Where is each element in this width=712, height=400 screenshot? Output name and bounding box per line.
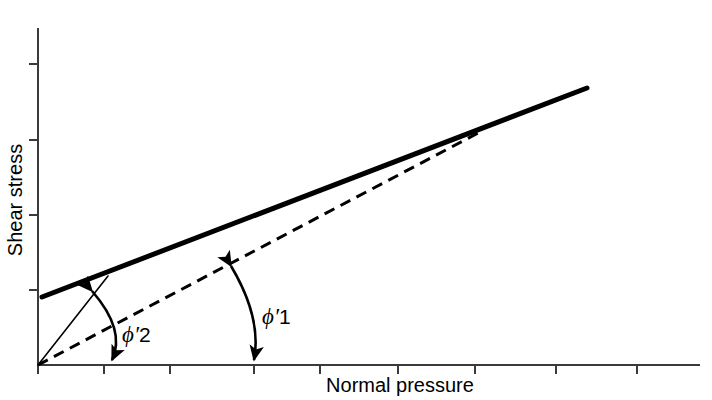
- y-axis-label: Shear stress: [4, 144, 26, 256]
- phi-prime-1-label: ϕ′1: [262, 304, 291, 329]
- secant-peak-line: [38, 276, 108, 365]
- y-axis-ticks: [29, 64, 38, 290]
- phi-prime-1-arc-arrow: [231, 266, 256, 360]
- figure-root: Normal pressure Shear stress ϕ′2 ϕ′1: [0, 0, 712, 400]
- phi-prime-1-symbol: ϕ: [262, 304, 274, 329]
- label-group: Normal pressure Shear stress ϕ′2 ϕ′1: [4, 144, 474, 396]
- phi-prime-2-symbol: ϕ: [122, 322, 134, 347]
- x-axis-label: Normal pressure: [326, 374, 474, 396]
- phi-prime-2-label: ϕ′2: [122, 322, 151, 347]
- plot-canvas: Normal pressure Shear stress ϕ′2 ϕ′1: [0, 0, 712, 400]
- phi-prime-2-arc-arrow: [92, 291, 116, 360]
- angle-annotation-group: [92, 266, 256, 360]
- peak-strength-envelope: [42, 88, 587, 297]
- phi-prime-1-index: 1: [279, 305, 291, 328]
- series-group: [38, 88, 587, 365]
- critical-state-envelope: [38, 132, 480, 365]
- phi-prime-2-index: 2: [139, 323, 151, 346]
- x-axis-ticks: [38, 365, 637, 374]
